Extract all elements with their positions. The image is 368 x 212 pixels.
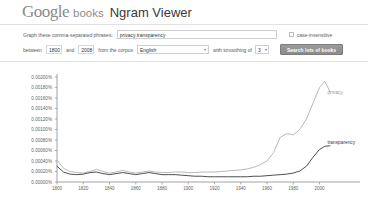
chart-svg: 0.00000%0.00020%0.00040%0.00060%0.00080%…	[0, 66, 368, 212]
corpus-label: from the corpus	[98, 47, 133, 53]
year-start-input[interactable]: 1800	[46, 45, 62, 54]
x-tick-label: 1900	[183, 186, 194, 191]
page-header: Google books Ngram Viewer	[22, 2, 192, 22]
ngram-chart: 0.00000%0.00020%0.00040%0.00060%0.00080%…	[0, 66, 368, 212]
x-tick-label: 1860	[131, 186, 142, 191]
x-tick-label: 1920	[209, 186, 220, 191]
y-tick-label: 0.00160%	[31, 96, 52, 101]
search-button[interactable]: Search lots of books	[280, 44, 343, 55]
y-tick-label: 0.00000%	[31, 180, 52, 185]
query-form: Graph these comma-separated phrases: pri…	[0, 24, 368, 62]
x-tick-label: 1820	[78, 186, 89, 191]
y-tick-label: 0.00140%	[31, 106, 52, 111]
y-tick-label: 0.00120%	[31, 117, 52, 122]
google-logo[interactable]: Google	[22, 2, 69, 22]
chevron-down-icon: ▾	[265, 48, 267, 52]
phrases-label: Graph these comma-separated phrases:	[23, 32, 113, 38]
phrases-row: Graph these comma-separated phrases: pri…	[23, 30, 332, 39]
smoothing-select[interactable]: 3 ▾	[255, 45, 269, 54]
series-lines[interactable]	[57, 81, 330, 177]
series-labels: privacytransparency	[327, 90, 355, 145]
case-insensitive-checkbox[interactable]	[289, 32, 294, 37]
options-row: between 1800 and 2008 from the corpus En…	[23, 44, 343, 55]
case-insensitive-checkbox-wrap[interactable]: case-insensitive	[289, 32, 333, 38]
between-label: between	[23, 47, 42, 53]
series-label-transparency: transparency	[327, 140, 355, 145]
corpus-select-value: English	[140, 47, 156, 53]
x-tick-label: 1840	[104, 186, 115, 191]
y-tick-label: 0.00040%	[31, 159, 52, 164]
y-axis-tick-labels: 0.00000%0.00020%0.00040%0.00060%0.00080%…	[31, 75, 52, 185]
y-tick-label: 0.00100%	[31, 127, 52, 132]
y-tick-label: 0.00060%	[31, 148, 52, 153]
x-axis-tick-labels: 1800182018401860188019001920194019601980…	[52, 186, 325, 191]
x-tick-label: 1880	[157, 186, 168, 191]
x-tick-label: 1800	[52, 186, 63, 191]
series-label-privacy: privacy	[327, 90, 343, 95]
series-line-privacy[interactable]	[57, 81, 330, 173]
y-tick-label: 0.00180%	[31, 85, 52, 90]
smoothing-select-value: 3	[258, 47, 261, 53]
books-logo[interactable]: books	[73, 7, 104, 19]
and-label: and	[66, 47, 74, 53]
year-end-input[interactable]: 2008	[78, 45, 94, 54]
page-title: Ngram Viewer	[110, 5, 192, 20]
x-tick-label: 2000	[314, 186, 325, 191]
y-tick-label: 0.00020%	[31, 169, 52, 174]
corpus-select[interactable]: English ▾	[137, 45, 209, 54]
y-tick-label: 0.00080%	[31, 138, 52, 143]
case-insensitive-label: case-insensitive	[297, 32, 333, 38]
phrases-input[interactable]: privacy,transparency	[117, 30, 277, 39]
chevron-down-icon: ▾	[204, 48, 206, 52]
x-tick-label: 1960	[262, 186, 273, 191]
y-tick-label: 0.00200%	[31, 75, 52, 80]
x-tick-label: 1940	[236, 186, 247, 191]
x-tick-label: 1980	[288, 186, 299, 191]
smoothing-label: with smoothing of	[213, 47, 252, 53]
